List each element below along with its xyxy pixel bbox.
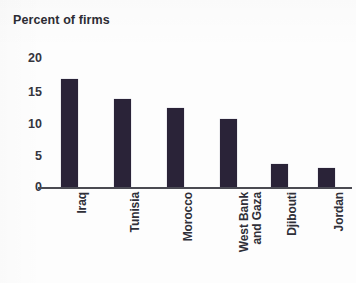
bar-djibouti [271,164,288,187]
bar-jordan [318,168,335,187]
x-label-iraq: Iraq [76,192,89,280]
x-label-west-bank-and-gaza: West Bank and Gaza [238,192,264,280]
x-label-jordan: Jordan [333,192,346,280]
x-label-morocco: Morocco [182,192,195,280]
x-label-tunisia: Tunisia [129,192,142,280]
bar-iraq [61,79,78,187]
bar-west-bank-gaza [220,119,237,187]
bar-tunisia [114,99,131,187]
bar-chart-figure: Percent of firms 20 15 10 5 0 Iraq Tunis… [0,0,356,283]
x-label-djibouti: Djibouti [286,192,299,280]
bar-morocco [167,108,184,187]
x-axis-category-labels: Iraq Tunisia Morocco West Bank and Gaza … [0,192,356,283]
plot-area: 20 15 10 5 0 Iraq Tunisia Morocco West B… [0,0,356,283]
